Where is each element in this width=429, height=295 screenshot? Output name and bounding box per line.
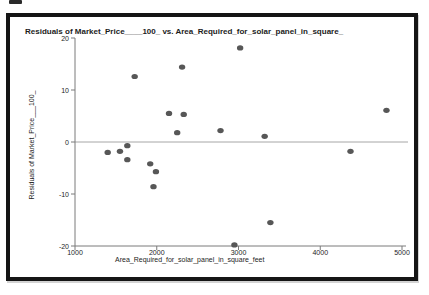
y-tick-label: 20 (61, 35, 69, 42)
data-point (105, 150, 111, 155)
data-point (267, 220, 273, 225)
x-tick-label: 1000 (67, 249, 83, 256)
data-point (231, 242, 237, 247)
data-point (117, 149, 123, 154)
data-point (237, 45, 243, 50)
data-point (131, 74, 137, 79)
screenshot-canvas: Residuals of Market_Price____100_ vs. Ar… (0, 0, 429, 295)
data-point (347, 149, 353, 154)
data-point (147, 161, 153, 166)
residual-scatter-chart: 20100-10-2010002000300040005000 (0, 0, 429, 295)
x-tick-label: 5000 (394, 249, 410, 256)
data-point (383, 108, 389, 113)
y-tick-label: 10 (61, 87, 69, 94)
x-tick-label: 4000 (312, 249, 328, 256)
x-tick-label: 3000 (231, 249, 247, 256)
data-point (166, 111, 172, 116)
data-point (217, 128, 223, 133)
y-tick-label: -10 (59, 191, 69, 198)
data-point (153, 169, 159, 174)
data-point (124, 143, 130, 148)
x-tick-label: 2000 (149, 249, 165, 256)
y-tick-label: 0 (65, 139, 69, 146)
data-point (124, 157, 130, 162)
data-point (150, 184, 156, 189)
data-point (261, 134, 267, 139)
data-point (174, 130, 180, 135)
data-point (179, 65, 185, 70)
data-point (181, 112, 187, 117)
